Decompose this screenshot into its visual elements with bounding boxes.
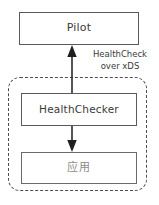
diagram-canvas: Pilot HealthChecker 应用 HealthCheck over … [0, 0, 159, 205]
node-healthchecker[interactable]: HealthChecker [21, 93, 137, 126]
arrow-healthchecker-to-application [67, 126, 76, 152]
node-application[interactable]: 应用 [21, 152, 137, 184]
node-pilot-label: Pilot [67, 22, 92, 34]
arrow-head-up [67, 45, 76, 57]
node-application-label: 应用 [67, 162, 91, 174]
edge-label-line-2: over xDS [83, 60, 157, 72]
edge-label-line-1: HealthCheck [83, 48, 157, 60]
arrow-healthchecker-to-pilot [67, 45, 76, 93]
node-pilot[interactable]: Pilot [19, 12, 139, 45]
node-healthchecker-label: HealthChecker [39, 104, 119, 116]
arrow-head-down [67, 140, 76, 152]
edge-label-healthcheck-over-xds: HealthCheck over xDS [83, 48, 157, 72]
